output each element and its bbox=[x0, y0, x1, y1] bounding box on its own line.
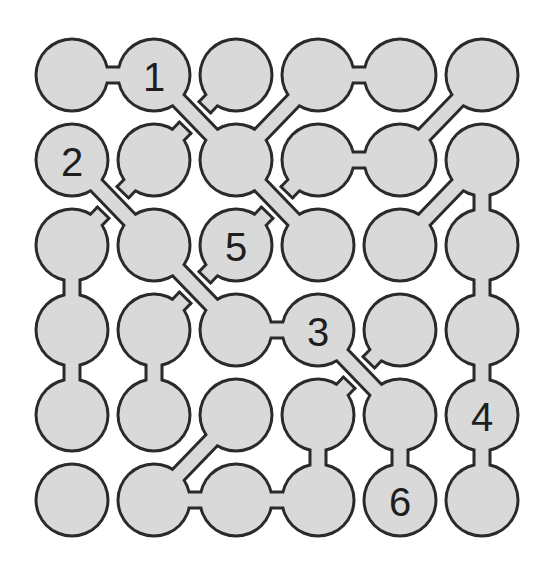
node-r0-c2[interactable] bbox=[202, 41, 271, 110]
node-r4-c3[interactable] bbox=[284, 381, 353, 450]
node-r2-c0[interactable] bbox=[38, 211, 107, 280]
node-r5-c1[interactable] bbox=[120, 466, 189, 535]
node-r4-c2[interactable] bbox=[202, 381, 271, 450]
node-r2-c1[interactable] bbox=[120, 211, 189, 280]
node-r0-c0[interactable] bbox=[38, 41, 107, 110]
puzzle-grid: 123456 bbox=[0, 0, 544, 578]
clue-number: 6 bbox=[389, 480, 411, 524]
node-r5-c5[interactable] bbox=[448, 466, 517, 535]
node-r2-c5[interactable] bbox=[448, 211, 517, 280]
puzzle-board: 123456 bbox=[0, 0, 544, 578]
node-r3-c0[interactable] bbox=[38, 296, 107, 365]
node-r1-c2[interactable] bbox=[202, 126, 271, 195]
node-r3-c4[interactable] bbox=[366, 296, 435, 365]
node-r5-c3[interactable] bbox=[284, 466, 353, 535]
node-r3-c5[interactable] bbox=[448, 296, 517, 365]
node-r0-c4[interactable] bbox=[366, 41, 435, 110]
clue-number: 3 bbox=[307, 310, 329, 354]
node-r1-c1[interactable] bbox=[120, 126, 189, 195]
clue-number: 1 bbox=[143, 55, 165, 99]
clue-number: 5 bbox=[225, 225, 247, 269]
node-r1-c4[interactable] bbox=[366, 126, 435, 195]
node-r4-c0[interactable] bbox=[38, 381, 107, 450]
node-r4-c4[interactable] bbox=[366, 381, 435, 450]
node-r3-c1[interactable] bbox=[120, 296, 189, 365]
clue-number: 2 bbox=[61, 140, 83, 184]
node-r5-c0[interactable] bbox=[38, 466, 107, 535]
node-r2-c4[interactable] bbox=[366, 211, 435, 280]
node-r1-c5[interactable] bbox=[448, 126, 517, 195]
node-r1-c3[interactable] bbox=[284, 126, 353, 195]
node-r0-c3[interactable] bbox=[284, 41, 353, 110]
node-r5-c2[interactable] bbox=[202, 466, 271, 535]
node-r3-c2[interactable] bbox=[202, 296, 271, 365]
clue-number: 4 bbox=[471, 395, 493, 439]
node-r2-c3[interactable] bbox=[284, 211, 353, 280]
node-r4-c1[interactable] bbox=[120, 381, 189, 450]
node-r0-c5[interactable] bbox=[448, 41, 517, 110]
